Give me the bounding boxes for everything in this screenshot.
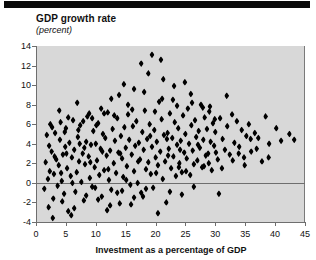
y-tick-label: 12 xyxy=(21,61,31,71)
chart-title: GDP growth rate xyxy=(36,13,116,24)
x-tick-label: 40 xyxy=(270,229,280,239)
x-tick-label: 25 xyxy=(180,229,190,239)
y-tick-label: 10 xyxy=(21,80,31,90)
y-tick-label: -4 xyxy=(23,217,31,227)
y-tick-label: 8 xyxy=(26,100,31,110)
y-tick-label: 2 xyxy=(26,158,31,168)
plot-background xyxy=(36,46,305,222)
y-tick-label: 6 xyxy=(26,119,31,129)
y-tick-label: 14 xyxy=(21,41,31,51)
y-axis-line xyxy=(36,46,37,222)
x-axis-title: Investment as a percentage of GDP xyxy=(36,245,306,255)
x-tick-label: 45 xyxy=(300,229,310,239)
x-axis-line xyxy=(36,222,306,223)
chart-subtitle: (percent) xyxy=(36,25,72,35)
header-rule xyxy=(4,1,310,8)
y-tick-label: -2 xyxy=(23,197,31,207)
y-tick-label: 0 xyxy=(26,178,31,188)
x-tick-label: 30 xyxy=(210,229,220,239)
x-tick-label: 10 xyxy=(91,229,101,239)
y-tick-label: 4 xyxy=(26,139,31,149)
zero-reference-line xyxy=(36,183,305,184)
x-tick-label: 5 xyxy=(63,229,68,239)
x-tick-label: 20 xyxy=(151,229,161,239)
x-tick-label: 15 xyxy=(121,229,131,239)
plot-area: -4-202468101214 051015202530354045 xyxy=(36,46,305,222)
x-tick-label: 35 xyxy=(240,229,250,239)
x-tick-label: 0 xyxy=(33,229,38,239)
